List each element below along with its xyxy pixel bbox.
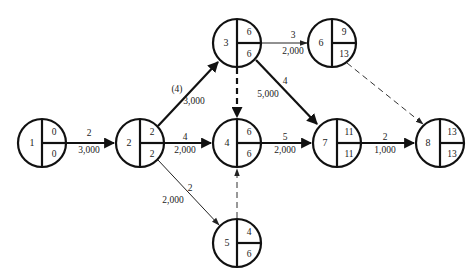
node-6-early-time: 9 [342,27,347,37]
edge-2-3: (4) 3,000 [158,62,218,126]
edge-7-8: 2 1,000 [362,132,414,155]
edge-1-2: 2 3,000 [66,128,114,155]
edge-2-3-cost: 3,000 [183,96,205,106]
node-1-late-time: 0 [52,149,57,159]
edge-3-7-duration: 4 [283,76,288,86]
edge-7-8-cost: 1,000 [374,145,396,155]
node-4-id: 4 [225,137,230,148]
node-3-early-time: 6 [247,27,252,37]
edge-2-4: 4 2,000 [164,132,211,155]
node-3-late-time: 6 [247,49,252,59]
node-3: 3 6 6 [213,19,261,67]
node-5-early-time: 4 [247,227,252,237]
node-5: 5 4 6 [213,219,261,267]
edge-4-7-cost: 2,000 [274,145,296,155]
edge-1-2-cost: 3,000 [78,145,100,155]
node-6-late-time: 13 [339,49,349,59]
edge-4-7-duration: 5 [283,132,288,142]
node-7-id: 7 [323,137,328,148]
edge-3-6-duration: 3 [291,30,296,40]
node-8: 8 13 13 [416,119,464,167]
edge-6-8-dummy [347,63,423,124]
edge-2-5-duration: 2 [188,183,193,193]
node-7-early-time: 11 [344,127,353,137]
edge-2-5: 2 2,000 [158,160,219,225]
edge-2-3-duration: (4) [171,84,182,95]
node-1: 1 0 0 [18,119,66,167]
edge-3-6: 3 2,000 [262,30,307,56]
node-7: 7 11 11 [313,119,361,167]
node-7-late-time: 11 [344,149,353,159]
edge-3-7-cost: 5,000 [257,89,279,99]
edge-7-8-duration: 2 [383,132,388,142]
node-5-id: 5 [225,237,230,248]
edge-3-6-cost: 2,000 [282,46,304,56]
edge-2-5-cost: 2,000 [162,195,184,205]
node-1-id: 1 [30,137,35,148]
node-4: 4 6 6 [213,119,261,167]
node-8-late-time: 13 [447,149,457,159]
edge-3-7: 4 5,000 [256,60,317,124]
node-6-id: 6 [319,37,324,48]
node-2-early-time: 2 [150,127,155,137]
edge-4-7: 5 2,000 [262,132,311,155]
node-2-id: 2 [127,137,132,148]
node-3-id: 3 [224,37,229,48]
node-2: 2 2 2 [116,119,164,167]
node-4-early-time: 6 [247,127,252,137]
edge-2-4-duration: 4 [183,132,188,142]
node-8-id: 8 [426,137,431,148]
edge-2-4-cost: 2,000 [174,145,196,155]
node-6: 6 9 13 [308,19,356,67]
edge-1-2-duration: 2 [87,128,92,138]
node-1-early-time: 0 [52,127,57,137]
node-5-late-time: 6 [247,249,252,259]
node-2-late-time: 2 [150,149,155,159]
node-4-late-time: 6 [247,149,252,159]
network-diagram: 2 3,000 (4) 3,000 4 2,000 2 2,000 3 2,00… [0,0,472,278]
node-8-early-time: 13 [447,127,457,137]
